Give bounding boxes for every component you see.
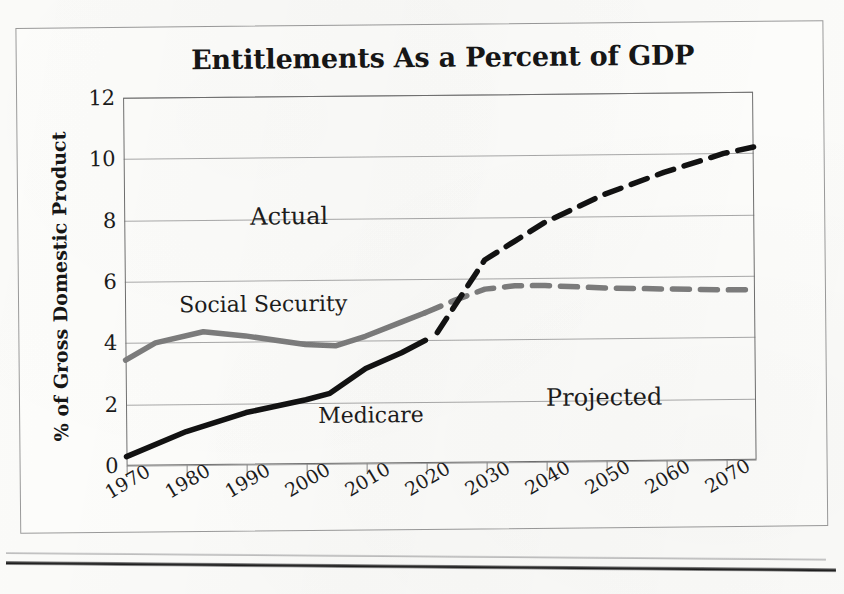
y-axis-title: % of Gross Domestic Product bbox=[47, 116, 72, 456]
y-tick-label-10: 10 bbox=[89, 147, 116, 171]
series-line-social-security-actual bbox=[125, 313, 425, 360]
figure-sheet: Entitlements As a Percent of GDP % of Gr… bbox=[0, 0, 844, 594]
annotation-projected: Projected bbox=[546, 382, 663, 411]
y-tick-label-4: 4 bbox=[104, 331, 118, 355]
series-line-medicare-actual bbox=[125, 340, 426, 456]
y-tick-label-2: 2 bbox=[105, 393, 119, 417]
annotation-actual: Actual bbox=[250, 202, 328, 231]
scanned-figure-page: Entitlements As a Percent of GDP % of Gr… bbox=[0, 0, 844, 594]
chart-title: Entitlements As a Percent of GDP bbox=[138, 39, 748, 76]
series-line-social-security-projected bbox=[425, 283, 755, 312]
series-line-medicare-projected bbox=[436, 147, 756, 333]
plot-area: 121086420 197019801990200020102020203020… bbox=[123, 92, 757, 466]
y-tick-label-8: 8 bbox=[103, 209, 117, 233]
annotation-social-security: Social Security bbox=[179, 290, 347, 317]
annotation-medicare: Medicare bbox=[318, 402, 424, 428]
y-tick-label-6: 6 bbox=[103, 270, 117, 294]
y-tick-label-12: 12 bbox=[88, 86, 115, 110]
